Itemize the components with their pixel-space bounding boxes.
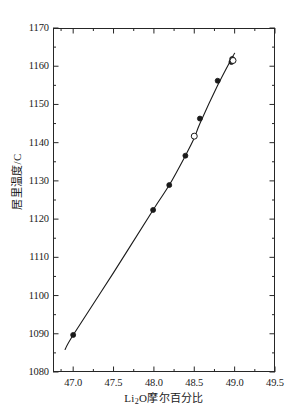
x-axis-title: Li2O摩尔百分比: [53, 393, 275, 407]
x-tick-label: 49.0: [215, 378, 255, 389]
y-axis-minor-ticks: [53, 47, 275, 353]
x-axis-title-post: O摩尔百分比: [139, 392, 204, 404]
data-points-filled: [71, 56, 235, 337]
y-tick-label: 1080: [3, 367, 49, 378]
data-point-filled: [71, 332, 76, 337]
data-point-open: [191, 133, 197, 139]
y-tick-label: 1100: [3, 291, 49, 302]
y-axis-title: 居里温度/C: [12, 134, 23, 230]
data-point-filled: [151, 207, 156, 212]
x-axis-title-pre: Li: [124, 392, 134, 404]
data-point-filled: [215, 78, 220, 83]
x-axis-minor-ticks: [61, 28, 255, 372]
trend-line: [65, 53, 235, 349]
y-tick-label: 1160: [3, 61, 49, 72]
x-tick-label: 47.5: [94, 378, 134, 389]
x-axis-major-ticks: [73, 28, 275, 372]
y-tick-label: 1140: [3, 138, 49, 149]
y-tick-label: 1150: [3, 99, 49, 110]
x-tick-label: 47.0: [53, 378, 93, 389]
data-point-open: [230, 57, 236, 63]
y-tick-label: 1090: [3, 329, 49, 340]
data-point-filled: [183, 153, 188, 158]
curie-temperature-chart: 1080109011001110112011301140115011601170…: [0, 0, 299, 418]
y-tick-label: 1120: [3, 214, 49, 225]
y-tick-label: 1110: [3, 252, 49, 263]
x-tick-label: 48.5: [174, 378, 214, 389]
x-tick-label: 48.0: [134, 378, 174, 389]
data-point-filled: [197, 116, 202, 121]
y-tick-label: 1170: [3, 23, 49, 34]
x-tick-label: 49.5: [255, 378, 295, 389]
y-axis-major-ticks: [53, 28, 275, 372]
data-point-filled: [167, 183, 172, 188]
